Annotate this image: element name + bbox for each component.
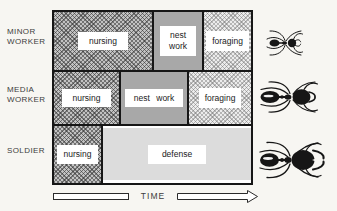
row-soldier: nursing defense (54, 126, 251, 183)
media-worker-ant-icon (257, 79, 323, 115)
figure-canvas: MINOR WORKER MEDIA WORKER SOLDIER nursin… (0, 0, 337, 211)
task-label-foraging: foraging (206, 31, 249, 52)
segment-minor-foraging: foraging (204, 12, 251, 70)
caste-label-media-worker: MEDIA WORKER (7, 85, 53, 106)
caste-label-minor-worker: MINOR WORKER (7, 27, 53, 48)
time-arrow-icon (178, 191, 258, 203)
minor-worker-ant-icon (265, 27, 309, 59)
task-label-nest-work: nest work (160, 26, 196, 55)
row-minor-worker: nursing nest work foraging (54, 12, 251, 72)
task-grid: nursing nest work foraging nursing nest … (52, 10, 253, 185)
segment-minor-nursing: nursing (54, 12, 154, 70)
segment-media-foraging: foraging (189, 72, 251, 124)
segment-media-nest-work: nest work (121, 72, 189, 124)
caste-label-soldier: SOLDIER (7, 146, 53, 156)
time-axis-label: TIME (136, 191, 170, 201)
task-label-foraging: foraging (199, 88, 242, 109)
segment-media-nursing: nursing (54, 72, 121, 124)
segment-soldier-nursing: nursing (54, 126, 103, 183)
task-label-nursing: nursing (62, 89, 112, 108)
segment-soldier-defense: defense (103, 126, 251, 183)
task-label-nursing: nursing (78, 32, 128, 51)
task-label-nest-work: nest work (125, 89, 183, 108)
task-label-nursing: nursing (57, 145, 99, 164)
task-label-defense: defense (148, 145, 206, 164)
time-axis-bar (54, 194, 129, 200)
soldier-ant-icon (257, 138, 327, 182)
segment-minor-nest-work: nest work (154, 12, 204, 70)
row-media-worker: nursing nest work foraging (54, 72, 251, 126)
